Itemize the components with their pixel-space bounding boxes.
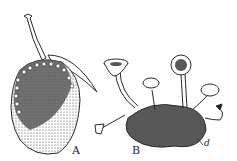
label-a: A [72, 144, 80, 157]
label-d: d [204, 138, 210, 148]
figure-b-fungi [95, 55, 223, 147]
label-b: B [132, 144, 140, 157]
illustration-svg [0, 0, 237, 161]
figure-a-fruit [11, 14, 97, 154]
